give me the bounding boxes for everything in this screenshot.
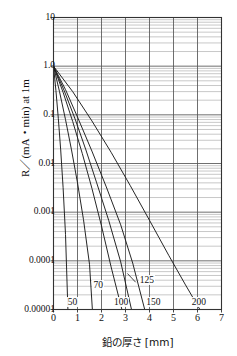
y-tick-label: 0.0001 [29, 255, 55, 265]
chart-figure: R／(mA・min) at 1m 鉛の厚さ [mm] 101.00.10.010… [0, 0, 237, 356]
curve-70 [54, 66, 93, 309]
curve-50 [54, 66, 68, 309]
curve-100 [54, 66, 122, 309]
y-tick-label: 0.1 [43, 109, 55, 119]
y-tick-label: 1.0 [43, 60, 55, 70]
grid-minor-horizontal [54, 20, 222, 295]
y-tick-label: 0.001 [34, 206, 55, 216]
x-tick-label: 3 [116, 312, 136, 323]
x-axis-label: 鉛の厚さ [mm] [53, 334, 222, 349]
x-tick-label: 0 [44, 312, 64, 323]
y-tick-label: 0.01 [38, 158, 55, 168]
x-tick-label: 2 [92, 312, 112, 323]
label-leader-lines [127, 273, 135, 282]
x-tick-label: 1 [68, 312, 88, 323]
x-tick-label: 4 [140, 312, 160, 323]
curve-label-150: 150 [145, 297, 161, 307]
curve-label-125: 125 [139, 275, 155, 285]
data-curves [54, 66, 200, 309]
y-axis-label: R／(mA・min) at 1m [16, 38, 32, 218]
curve-label-100: 100 [113, 297, 129, 307]
curve-label-70: 70 [92, 280, 104, 290]
curve-125 [54, 66, 132, 309]
x-tick-label: 6 [188, 312, 208, 323]
x-tick-label: 7 [212, 312, 232, 323]
curve-200 [54, 66, 200, 309]
curve-label-200: 200 [191, 297, 207, 307]
y-tick-label: 10 [46, 12, 56, 22]
x-tick-label: 5 [164, 312, 184, 323]
curve-label-50: 50 [67, 297, 79, 307]
